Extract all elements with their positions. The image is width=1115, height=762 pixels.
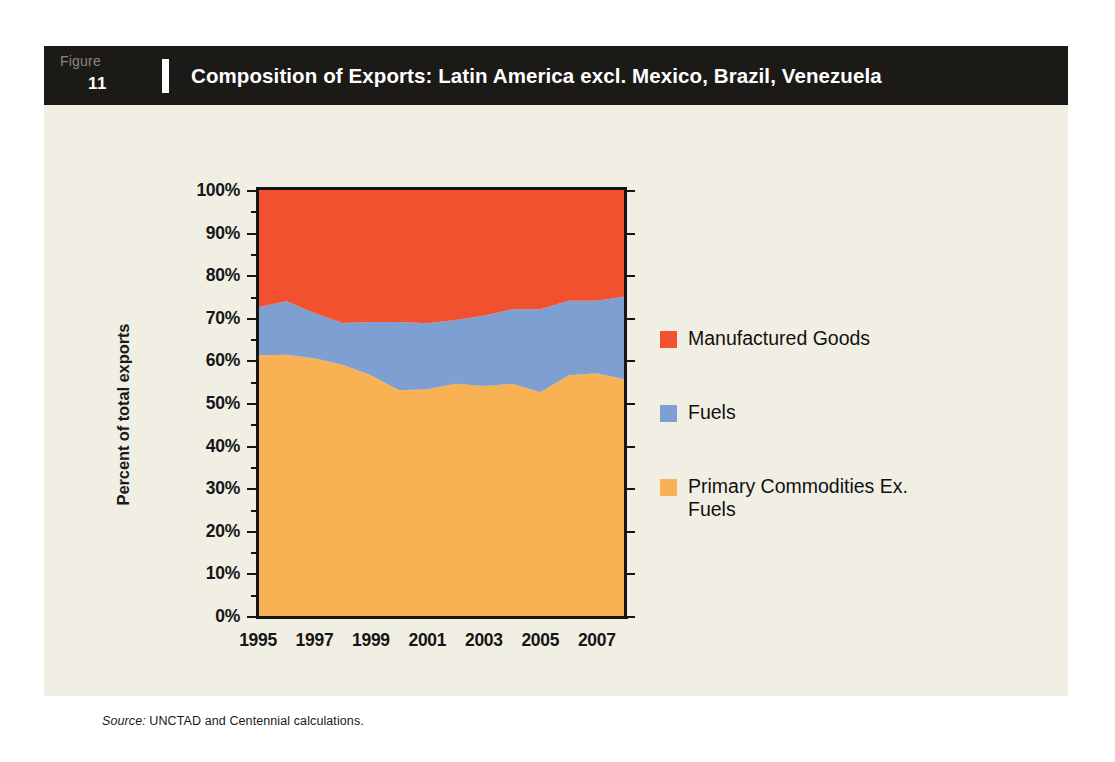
plot-area [258,190,625,616]
figure-title: Composition of Exports: Latin America ex… [191,64,882,88]
chart-region: Percent of total exports 0%10%20%30%40%5… [44,105,1068,696]
plot-top-border [256,187,626,190]
y-tick-mark-minor [251,382,257,384]
y-tick-mark-minor [251,254,257,256]
y-tick-mark-right [627,573,635,575]
y-axis-tick-70pct: 70% [152,307,240,328]
source-text: UNCTAD and Centennial calculations. [146,714,364,728]
y-tick-mark [247,446,257,448]
figure-header-divider [162,59,169,93]
y-axis-tick-90pct: 90% [152,222,240,243]
y-axis-tick-50pct: 50% [152,393,240,414]
chart-legend: Manufactured Goods Fuels Primary Commodi… [660,327,1040,572]
x-axis-tick-2005: 2005 [510,630,570,651]
y-axis-tick-0pct: 0% [152,606,240,627]
legend-item-manufactured-goods[interactable]: Manufactured Goods [660,327,1040,351]
y-axis-tick-30pct: 30% [152,478,240,499]
legend-item-primary-commodities[interactable]: Primary Commodities Ex. Fuels [660,475,1040,523]
y-tick-mark-right [627,531,635,533]
y-axis-tick-80pct: 80% [152,265,240,286]
source-note: Source: UNCTAD and Centennial calculatio… [102,714,364,728]
x-axis-tick-1997: 1997 [284,630,344,651]
y-tick-mark-right [627,360,635,362]
stacked-area-plot [258,190,625,616]
y-axis-tick-60pct: 60% [152,350,240,371]
x-axis-tick-2007: 2007 [567,630,627,651]
figure-header: Figure 11 Composition of Exports: Latin … [44,46,1068,105]
y-tick-mark-minor [251,552,257,554]
legend-label-manufactured-goods: Manufactured Goods [688,327,870,351]
legend-label-primary-commodities: Primary Commodities Ex. Fuels [688,475,958,523]
y-tick-mark [247,275,257,277]
y-axis-tick-labels: 0%10%20%30%40%50%60%70%80%90%100% [152,190,240,616]
y-tick-mark-right [627,446,635,448]
x-axis-line [256,616,628,619]
legend-item-fuels[interactable]: Fuels [660,401,1040,425]
y-tick-mark [247,360,257,362]
y-axis-tick-100pct: 100% [152,180,240,201]
figure-number: 11 [88,74,107,94]
y-tick-mark-right [627,275,635,277]
legend-label-fuels: Fuels [688,401,736,425]
y-tick-mark-minor [251,510,257,512]
y-tick-mark [247,616,257,618]
x-axis-tick-1995: 1995 [228,630,288,651]
figure-label-word: Figure [60,53,101,69]
y-tick-mark [247,531,257,533]
y-tick-mark-minor [251,297,257,299]
y-axis-tick-10pct: 10% [152,563,240,584]
y-tick-mark-minor [251,424,257,426]
y-tick-mark-minor [251,211,257,213]
y-axis-title: Percent of total exports [114,300,133,530]
page-root: Figure 11 Composition of Exports: Latin … [0,0,1115,762]
y-tick-mark [247,318,257,320]
y-tick-mark-right [627,488,635,490]
x-axis-tick-2003: 2003 [454,630,514,651]
y-tick-mark [247,573,257,575]
y-tick-mark [247,190,257,192]
x-axis-tick-1999: 1999 [341,630,401,651]
y-tick-mark-right [627,616,635,618]
y-tick-mark-minor [251,339,257,341]
figure-number-block: Figure 11 [44,46,162,105]
x-axis-tick-labels: 1995199719992001200320052007 [258,630,658,660]
y-axis-tick-40pct: 40% [152,435,240,456]
legend-swatch-manufactured-goods [660,331,677,348]
x-axis-tick-2001: 2001 [397,630,457,651]
y-tick-mark-right [627,318,635,320]
area-series-primary-commodities-ex-fuels [258,355,625,616]
y-axis-tick-20pct: 20% [152,520,240,541]
y-tick-mark-minor [251,595,257,597]
y-tick-mark [247,488,257,490]
y-tick-mark-right [627,403,635,405]
y-tick-mark [247,233,257,235]
y-tick-mark [247,403,257,405]
y-tick-mark-right [627,233,635,235]
source-label: Source: [102,714,146,728]
legend-swatch-fuels [660,405,677,422]
legend-swatch-primary-commodities [660,479,677,496]
y-tick-mark-minor [251,467,257,469]
y-tick-mark-right [627,190,635,192]
figure-card: Figure 11 Composition of Exports: Latin … [44,46,1068,696]
